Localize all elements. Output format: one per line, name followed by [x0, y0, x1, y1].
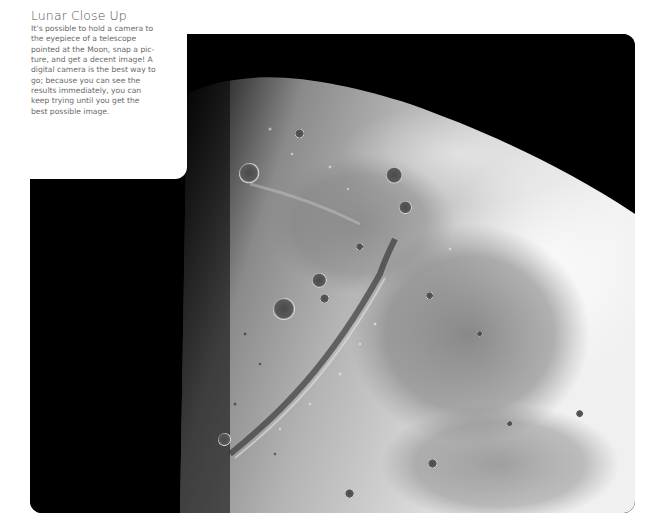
- caption-line: results immediately, you can: [31, 86, 179, 96]
- caption-line: It’s possible to hold a camera to: [31, 24, 179, 34]
- caption-title: Lunar Close Up: [31, 8, 127, 23]
- caption-line: pointed at the Moon, snap a pic-: [31, 45, 179, 55]
- caption-body: It’s possible to hold a camera to the ey…: [31, 24, 179, 117]
- caption-line: best possible image.: [31, 107, 179, 117]
- caption-line: digital camera is the best way to: [31, 65, 179, 75]
- caption-line: keep trying until you get the: [31, 96, 179, 106]
- caption-line: the eyepiece of a telescope: [31, 34, 179, 44]
- caption-line: go; because you can see the: [31, 76, 179, 86]
- caption-box: Lunar Close Up It’s possible to hold a c…: [0, 0, 187, 179]
- caption-line: ture, and get a decent image! A: [31, 55, 179, 65]
